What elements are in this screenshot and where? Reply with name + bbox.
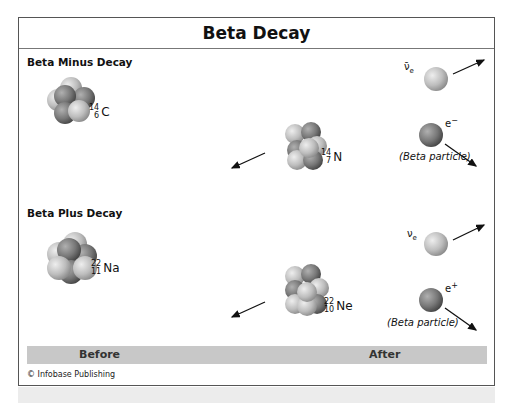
bottom-band	[18, 387, 495, 403]
carbon-nucleus	[47, 77, 95, 124]
diagram-frame: Beta Decay	[18, 17, 495, 386]
carbon-isotope-label: 146C	[89, 104, 110, 120]
antineutrino-label: ν̄e	[404, 61, 414, 75]
positron-label: e+	[445, 281, 458, 294]
beta-particle-caption: (Beta particle)	[399, 151, 471, 162]
neon-isotope-label: 2210Ne	[324, 298, 353, 314]
nucleus-recoil-arrow	[232, 302, 265, 317]
positron-sphere	[419, 288, 443, 312]
nucleus-recoil-arrow	[232, 153, 265, 168]
before-after-bar: Before After	[27, 346, 487, 364]
sodium-isotope-label: 2211Na	[91, 260, 120, 276]
antineutrino-sphere	[424, 67, 448, 91]
after-label: After	[369, 346, 400, 364]
neon-nucleus	[285, 264, 329, 316]
electron-sphere	[419, 123, 443, 147]
sodium-nucleus	[47, 232, 97, 284]
beta-minus-label: Beta Minus Decay	[27, 56, 132, 68]
neutrino-label: νe	[407, 228, 417, 242]
credit-text: © Infobase Publishing	[27, 370, 115, 379]
nitrogen-isotope-label: 147N	[321, 149, 342, 165]
electron-label: e−	[445, 116, 458, 129]
before-label: Before	[79, 346, 120, 364]
beta-plus-label: Beta Plus Decay	[27, 207, 122, 219]
neutrino-sphere	[424, 232, 448, 256]
beta-particle-caption: (Beta particle)	[387, 317, 459, 328]
